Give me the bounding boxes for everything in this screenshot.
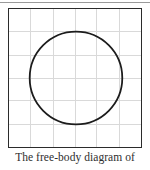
diagram-grid-panel [8, 8, 142, 148]
free-body-diagram-figure: The free-body diagram of [0, 0, 150, 170]
figure-caption: The free-body diagram of [0, 150, 150, 165]
top-divider-rule [0, 2, 150, 3]
body-circle-icon [9, 9, 141, 147]
